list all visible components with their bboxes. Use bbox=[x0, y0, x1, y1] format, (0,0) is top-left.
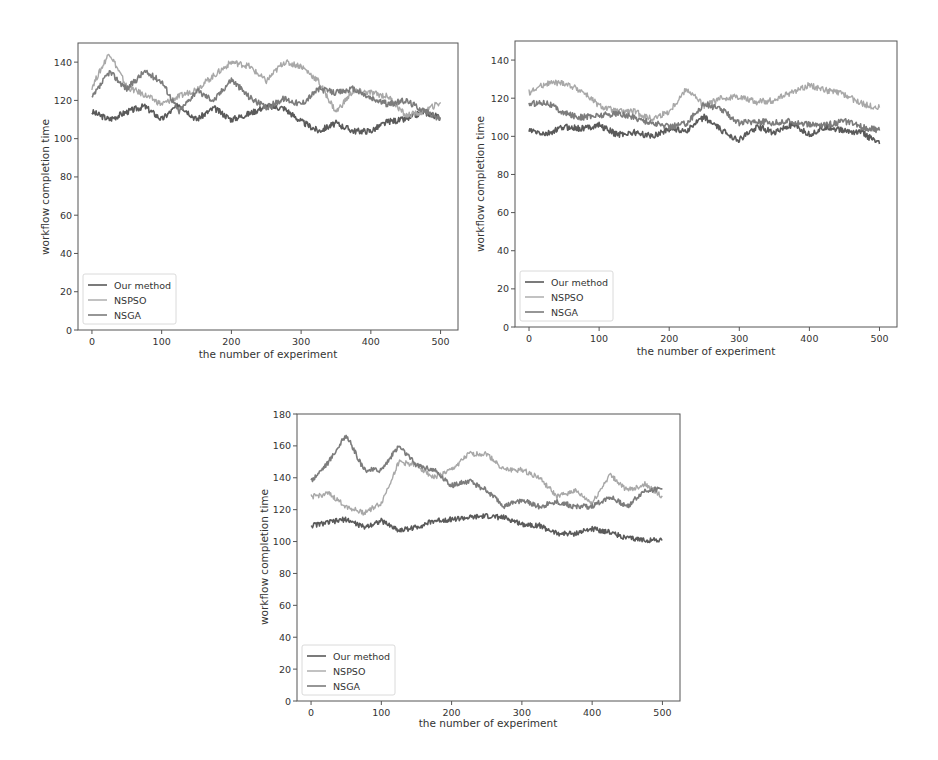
y-tick-label: 20 bbox=[279, 664, 291, 675]
chart-bottom: 020406080100120140160180 010020030040050… bbox=[0, 0, 938, 760]
y-tick-label: 80 bbox=[279, 568, 291, 579]
y-tick-label: 0 bbox=[285, 696, 291, 707]
y-tick-label: 140 bbox=[273, 472, 291, 483]
y-tick-label: 100 bbox=[273, 536, 291, 547]
legend-label: NSGA bbox=[333, 681, 360, 692]
legend-label: NSPSO bbox=[333, 666, 365, 677]
x-axis-label: the number of experiment bbox=[419, 717, 558, 729]
y-tick-label: 40 bbox=[279, 632, 291, 643]
legend-label: Our method bbox=[333, 651, 390, 662]
legend: Our methodNSPSONSGA bbox=[302, 645, 395, 695]
y-axis: 020406080100120140160180 bbox=[273, 409, 297, 707]
series-line-our-method bbox=[311, 514, 662, 543]
series-line-nsga bbox=[311, 435, 662, 509]
y-tick-label: 180 bbox=[273, 409, 291, 420]
y-tick-label: 120 bbox=[273, 504, 291, 515]
y-tick-label: 60 bbox=[279, 600, 291, 611]
x-axis: 0100200300400500 bbox=[308, 701, 671, 718]
series-line-nspso bbox=[311, 452, 662, 516]
x-tick-label: 100 bbox=[372, 707, 390, 718]
x-tick-label: 400 bbox=[583, 707, 601, 718]
x-tick-label: 500 bbox=[653, 707, 671, 718]
y-axis-label: workflow completion time bbox=[258, 489, 270, 625]
y-tick-label: 160 bbox=[273, 440, 291, 451]
x-tick-label: 0 bbox=[308, 707, 314, 718]
